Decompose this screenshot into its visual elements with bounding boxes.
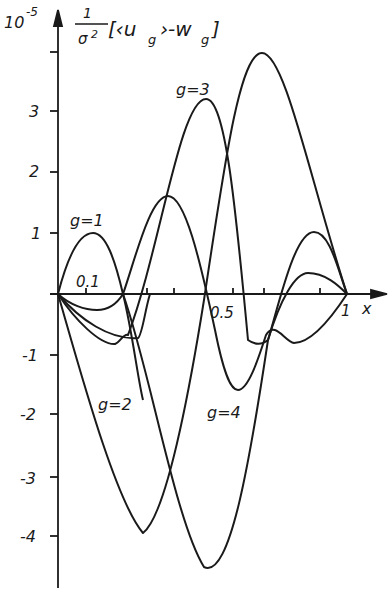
curve-left-dip: [58, 294, 150, 338]
y-tick-m3: -3: [20, 469, 36, 488]
y-tick-m2: -2: [20, 405, 36, 424]
x-axis-arrow-icon: [371, 290, 387, 298]
x-tick-0.5: 0.5: [210, 304, 234, 322]
y-label-numerator: 1: [83, 5, 92, 21]
y-label-denominator-exp: 2: [91, 28, 98, 41]
y-label-sub1: g: [148, 32, 156, 47]
curve-g2: [58, 53, 347, 533]
y-tick-2: 2: [29, 162, 39, 181]
y-label-mid: ›-w: [160, 17, 192, 41]
x-tick-1: 1: [341, 302, 351, 320]
axes: [50, 10, 387, 588]
curve-label-g1: g=1: [70, 211, 104, 230]
y-label-bracket: [‹u: [108, 17, 136, 41]
y-tick-3: 3: [29, 102, 39, 121]
curve-label-g2: g=2: [98, 395, 132, 414]
y-scale-label: 10: [4, 13, 24, 32]
curve-label-g4: g=4: [207, 403, 241, 422]
y-tick-1: 1: [31, 224, 41, 243]
y-label-sub2: g: [201, 32, 209, 47]
chart: 10 -5 1 σ 2 [‹u g ›-w g ] x 0.1 0.5 1 3 …: [0, 0, 391, 601]
x-tick-0.1: 0.1: [76, 273, 100, 291]
y-axis-arrow-icon: [54, 10, 62, 26]
curve-label-g3: g=3: [176, 80, 210, 99]
y-tick-m1: -1: [22, 346, 38, 365]
y-label-bracket-end: ]: [211, 17, 220, 41]
y-label-denominator: σ: [78, 30, 88, 48]
y-tick-m4: -4: [20, 527, 36, 546]
x-axis-label: x: [361, 299, 372, 318]
y-scale-exponent: -5: [26, 5, 38, 19]
curves: [58, 53, 347, 568]
